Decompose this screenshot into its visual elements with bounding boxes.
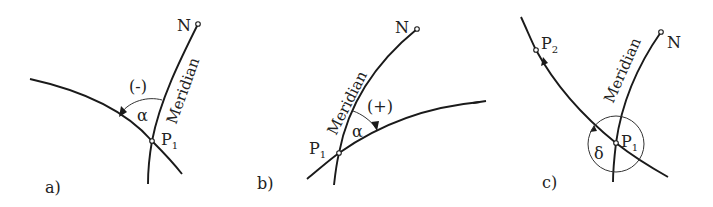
north-point bbox=[659, 30, 664, 35]
panel-label-c: c) bbox=[542, 173, 557, 192]
angle-alpha-label: α bbox=[352, 122, 363, 141]
p1-label: P1 bbox=[161, 130, 178, 151]
panel-a: N Meridian (-) α P1 a) bbox=[30, 16, 204, 197]
p1-point bbox=[614, 141, 619, 146]
p1-point bbox=[150, 139, 155, 144]
north-point bbox=[415, 27, 420, 32]
panel-c: N Meridian P2 P1 δ c) bbox=[473, 17, 681, 192]
sign-label: (-) bbox=[129, 77, 147, 96]
north-label: N bbox=[177, 16, 191, 35]
north-point bbox=[196, 22, 201, 27]
p2-label: P2 bbox=[541, 34, 558, 55]
p1-point bbox=[337, 151, 342, 156]
p1-label: P1 bbox=[621, 132, 638, 153]
p2-point bbox=[534, 48, 539, 53]
meridian-label: Meridian bbox=[324, 68, 372, 138]
meridian-label: Meridian bbox=[163, 55, 204, 127]
curve-stub bbox=[473, 101, 486, 103]
p1-label: P1 bbox=[309, 139, 326, 160]
north-label: N bbox=[667, 33, 681, 52]
sign-label: (+) bbox=[367, 97, 393, 116]
azimuth-diagram: N Meridian (-) α P1 a) N Meridian (+) α … bbox=[0, 0, 713, 207]
angle-alpha-label: α bbox=[137, 106, 148, 125]
panel-label-b: b) bbox=[257, 174, 273, 193]
curve-line bbox=[30, 79, 182, 174]
north-label: N bbox=[395, 18, 409, 37]
angle-delta-label: δ bbox=[594, 144, 604, 163]
panel-b: N Meridian (+) α P1 b) bbox=[257, 18, 480, 193]
panel-label-a: a) bbox=[45, 178, 61, 197]
